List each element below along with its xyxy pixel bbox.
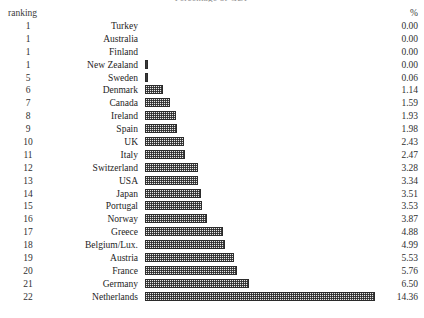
- row-rank: 5: [10, 72, 46, 84]
- row-country-label: Finland: [46, 46, 138, 58]
- row-country-label: Norway: [46, 213, 138, 225]
- row-rank: 12: [10, 162, 46, 174]
- row-rank: 11: [10, 149, 46, 161]
- row-value: 1.93: [374, 110, 418, 122]
- row-value: 1.14: [374, 84, 418, 96]
- row-country-label: New Zealand: [46, 59, 138, 71]
- row-bar-track: [145, 73, 375, 83]
- chart-row: 16Norway3.87: [0, 213, 424, 226]
- row-bar-track: [145, 111, 375, 121]
- chart-row: 10UK2.43: [0, 136, 424, 149]
- row-value: 2.43: [374, 136, 418, 148]
- row-country-label: Sweden: [46, 72, 138, 84]
- row-bar: [145, 137, 184, 146]
- row-country-label: Greece: [46, 226, 138, 238]
- row-value: 5.53: [374, 252, 418, 264]
- row-bar-track: [145, 292, 375, 302]
- row-bar-track: [145, 34, 375, 44]
- chart-row: 22Netherlands14.36: [0, 291, 424, 304]
- row-bar: [145, 176, 198, 185]
- row-country-label: USA: [46, 175, 138, 187]
- row-rank: 22: [10, 291, 46, 303]
- row-bar-track: [145, 124, 375, 134]
- row-rank: 21: [10, 278, 46, 290]
- row-country-label: Denmark: [46, 84, 138, 96]
- row-bar: [145, 98, 170, 107]
- row-bar-track: [145, 189, 375, 199]
- row-bar-track: [145, 137, 375, 147]
- chart-title: Percentage of GDP: [0, 0, 424, 2]
- row-bar: [145, 163, 198, 172]
- row-bar-track: [145, 21, 375, 31]
- row-value: 0.00: [374, 33, 418, 45]
- row-value: 4.99: [374, 239, 418, 251]
- row-country-label: Switzerland: [46, 162, 138, 174]
- chart-row: 17Greece4.88: [0, 226, 424, 239]
- row-value: 4.88: [374, 226, 418, 238]
- row-country-label: Australia: [46, 33, 138, 45]
- row-bar: [145, 150, 185, 159]
- row-bar-track: [145, 176, 375, 186]
- row-bar: [145, 124, 177, 133]
- row-country-label: Ireland: [46, 110, 138, 122]
- row-value: 3.51: [374, 188, 418, 200]
- row-value: 2.47: [374, 149, 418, 161]
- row-bar-track: [145, 253, 375, 263]
- row-bar-track: [145, 279, 375, 289]
- row-bar-track: [145, 85, 375, 95]
- row-country-label: UK: [46, 136, 138, 148]
- table-header: ranking %: [0, 8, 424, 20]
- row-rank: 10: [10, 136, 46, 148]
- row-rank: 14: [10, 188, 46, 200]
- row-rank: 18: [10, 239, 46, 251]
- row-bar: [145, 227, 223, 236]
- chart-row: 1New Zealand0.00: [0, 59, 424, 72]
- row-rank: 7: [10, 97, 46, 109]
- row-value: 3.87: [374, 213, 418, 225]
- row-rank: 8: [10, 110, 46, 122]
- row-rank: 9: [10, 123, 46, 135]
- row-rank: 19: [10, 252, 46, 264]
- row-value: 3.34: [374, 175, 418, 187]
- row-rank: 15: [10, 200, 46, 212]
- chart-row: 7Canada1.59: [0, 97, 424, 110]
- row-country-label: France: [46, 265, 138, 277]
- row-bar: [145, 73, 148, 82]
- column-header-ranking: ranking: [8, 8, 37, 18]
- row-bar: [145, 189, 201, 198]
- row-value: 6.50: [374, 278, 418, 290]
- chart-row: 8Ireland1.93: [0, 110, 424, 123]
- row-country-label: Italy: [46, 149, 138, 161]
- row-value: 3.53: [374, 200, 418, 212]
- chart-row: 5Sweden0.06: [0, 72, 424, 85]
- row-country-label: Austria: [46, 252, 138, 264]
- chart-row: 14Japan3.51: [0, 188, 424, 201]
- row-bar: [145, 266, 237, 275]
- chart-row: 1Turkey0.00: [0, 20, 424, 33]
- row-bar: [145, 111, 176, 120]
- row-country-label: Canada: [46, 97, 138, 109]
- row-value: 5.76: [374, 265, 418, 277]
- row-value: 1.98: [374, 123, 418, 135]
- row-bar-track: [145, 266, 375, 276]
- row-country-label: Belgium/Lux.: [46, 239, 138, 251]
- row-bar: [145, 279, 249, 288]
- chart-rows: 1Turkey0.001Australia0.001Finland0.001Ne…: [0, 20, 424, 304]
- row-rank: 6: [10, 84, 46, 96]
- row-value: 0.00: [374, 46, 418, 58]
- row-bar-track: [145, 214, 375, 224]
- row-bar: [145, 292, 375, 301]
- chart-row: 9Spain1.98: [0, 123, 424, 136]
- row-rank: 16: [10, 213, 46, 225]
- row-country-label: Japan: [46, 188, 138, 200]
- chart-row: 21Germany6.50: [0, 278, 424, 291]
- row-rank: 1: [10, 46, 46, 58]
- row-country-label: Turkey: [46, 20, 138, 32]
- row-rank: 13: [10, 175, 46, 187]
- row-bar-track: [145, 98, 375, 108]
- row-bar-track: [145, 240, 375, 250]
- row-bar: [145, 253, 234, 262]
- row-rank: 1: [10, 33, 46, 45]
- row-value: 0.06: [374, 72, 418, 84]
- row-bar-track: [145, 47, 375, 57]
